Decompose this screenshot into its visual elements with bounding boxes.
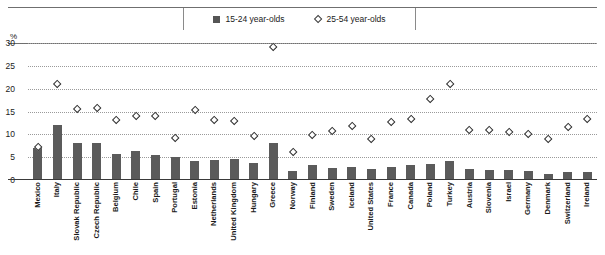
- x-axis-label-cell: Netherlands: [205, 182, 225, 254]
- diamond-25-54: [445, 80, 454, 89]
- x-axis-label: Switzerland: [564, 182, 572, 224]
- bar-15-24: [92, 143, 101, 180]
- x-axis-label-cell: United States: [362, 182, 382, 254]
- x-axis-label-cell: Austria: [460, 182, 480, 254]
- x-axis-label-cell: Spain: [146, 182, 166, 254]
- chart-column: [401, 43, 421, 180]
- chart-column: [28, 43, 48, 180]
- chart-column: [322, 43, 342, 180]
- x-axis-label-cell: Czech Republic: [87, 182, 107, 254]
- legend-item-bars: 15-24 year-olds: [213, 15, 284, 24]
- x-axis-label: Chile: [132, 182, 140, 201]
- x-axis-label-cell: Israel: [499, 182, 519, 254]
- x-axis-label-cell: Canada: [401, 182, 421, 254]
- bar-15-24: [131, 151, 140, 180]
- x-axis-label: Austria: [466, 182, 474, 208]
- x-axis-label-cell: Iceland: [342, 182, 362, 254]
- x-axis-label: Turkey: [446, 182, 454, 206]
- x-axis-label-cell: Finland: [303, 182, 323, 254]
- x-axis-label-cell: Slovenia: [479, 182, 499, 254]
- x-axis-label-cell: Belgium: [107, 182, 127, 254]
- x-axis-label-cell: Hungary: [244, 182, 264, 254]
- chart-column: [421, 43, 441, 180]
- bar-15-24: [426, 164, 435, 180]
- x-axis-label: Portugal: [171, 182, 179, 213]
- x-axis-label: Hungary: [250, 182, 258, 213]
- legend-item-diamonds: 25-54 year-olds: [315, 15, 386, 24]
- diamond-25-54: [190, 106, 199, 115]
- filled-square-icon: [213, 16, 220, 23]
- chart-column: [87, 43, 107, 180]
- diamond-25-54: [504, 128, 513, 137]
- bar-15-24: [230, 159, 239, 180]
- x-axis-label: Denmark: [544, 182, 552, 215]
- diamond-25-54: [131, 112, 140, 121]
- chart-column: [264, 43, 284, 180]
- bar-15-24: [406, 165, 415, 180]
- diamond-25-54: [387, 118, 396, 127]
- x-axis-label: Belgium: [113, 182, 121, 212]
- diamond-25-54: [171, 133, 180, 142]
- y-axis-tick-label: 5: [0, 153, 15, 162]
- chart-column: [440, 43, 460, 180]
- diamond-25-54: [73, 105, 82, 114]
- bar-15-24: [308, 165, 317, 180]
- y-axis-tick-label: 25: [0, 62, 15, 71]
- x-axis-label: Netherlands: [211, 182, 219, 226]
- chart-column: [558, 43, 578, 180]
- x-axis-label: Italy: [54, 182, 62, 197]
- diamond-25-54: [544, 134, 553, 143]
- x-axis-label-cell: Ireland: [578, 182, 598, 254]
- x-axis-label: Finland: [309, 182, 317, 209]
- diamond-25-54: [151, 112, 160, 121]
- x-axis-label: Estonia: [191, 182, 199, 209]
- diamond-25-54: [328, 127, 337, 136]
- x-axis-label: Iceland: [348, 182, 356, 208]
- x-axis-label-cell: Estonia: [185, 182, 205, 254]
- x-axis-label: Mexico: [34, 182, 42, 208]
- diamond-25-54: [53, 80, 62, 89]
- diamond-25-54: [230, 117, 239, 126]
- chart-column: [519, 43, 539, 180]
- y-axis-tick-label: 10: [0, 130, 15, 139]
- x-axis-label: Israel: [505, 182, 513, 202]
- diamond-25-54: [308, 131, 317, 140]
- x-axis-label-cell: Denmark: [538, 182, 558, 254]
- chart-column: [538, 43, 558, 180]
- bar-15-24: [347, 167, 356, 180]
- diamond-25-54: [524, 130, 533, 139]
- diamond-25-54: [288, 148, 297, 157]
- x-axis-label-cell: Germany: [519, 182, 539, 254]
- x-axis-label-cell: Switzerland: [558, 182, 578, 254]
- chart-column: [146, 43, 166, 180]
- bar-15-24: [210, 160, 219, 180]
- bar-15-24: [445, 161, 454, 180]
- x-axis-label: Slovak Republic: [73, 182, 81, 241]
- bar-15-24: [112, 154, 121, 180]
- chart-column: [303, 43, 323, 180]
- diamond-25-54: [347, 122, 356, 131]
- chart-column: [460, 43, 480, 180]
- chart-column: [578, 43, 598, 180]
- x-axis-label-cell: Greece: [264, 182, 284, 254]
- chart-column: [126, 43, 146, 180]
- diamond-25-54: [406, 114, 415, 123]
- x-axis-label-cell: Portugal: [165, 182, 185, 254]
- chart-column: [224, 43, 244, 180]
- x-axis-label: United Kingdom: [230, 182, 238, 241]
- x-axis-label: Poland: [427, 182, 435, 207]
- x-axis-label: United States: [368, 182, 376, 231]
- y-axis-tick-label: 15: [0, 107, 15, 116]
- bar-15-24: [33, 148, 42, 180]
- x-axis-labels: MexicoItalySlovak RepublicCzech Republic…: [28, 182, 597, 254]
- diamond-25-54: [249, 131, 258, 140]
- diamond-25-54: [563, 123, 572, 132]
- open-diamond-icon: [315, 16, 322, 23]
- diamond-25-54: [92, 103, 101, 112]
- x-axis-label-cell: Sweden: [322, 182, 342, 254]
- legend-label-diamonds: 25-54 year-olds: [327, 15, 386, 24]
- x-axis-label-cell: Norway: [283, 182, 303, 254]
- chart-column: [342, 43, 362, 180]
- chart-column: [165, 43, 185, 180]
- x-axis-label-cell: Slovak Republic: [67, 182, 87, 254]
